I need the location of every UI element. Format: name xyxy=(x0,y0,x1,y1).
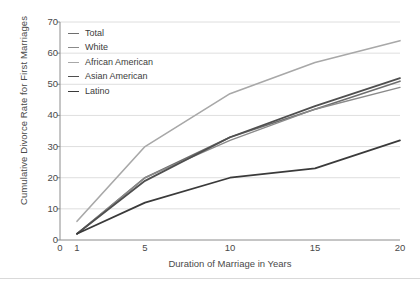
bottom-divider xyxy=(0,278,420,279)
legend-line-swatch-icon xyxy=(68,91,79,92)
x-tick-label: 20 xyxy=(388,243,412,253)
y-tick-label: 60 xyxy=(32,48,58,58)
y-tick-label: 40 xyxy=(32,110,58,120)
legend-label: African American xyxy=(85,58,153,67)
x-tick-label: 1 xyxy=(65,243,89,253)
legend-item-asian-american[interactable]: Asian American xyxy=(68,70,153,85)
plot-area xyxy=(0,0,420,283)
legend-item-white[interactable]: White xyxy=(68,41,153,56)
y-tick-label: 70 xyxy=(32,17,58,27)
legend-line-swatch-icon xyxy=(68,62,79,63)
legend-label: Latino xyxy=(85,87,110,96)
legend-label: Total xyxy=(85,29,104,38)
x-tick-label: 5 xyxy=(133,243,157,253)
legend-item-african-american[interactable]: African American xyxy=(68,55,153,70)
legend-line-swatch-icon xyxy=(68,47,79,48)
x-tick-label: 15 xyxy=(303,243,327,253)
x-tick-label: 10 xyxy=(218,243,242,253)
legend-line-swatch-icon xyxy=(68,76,79,77)
y-tick-labels: 010203040506070 xyxy=(28,0,58,283)
series-line-latino xyxy=(77,140,400,233)
legend-item-latino[interactable]: Latino xyxy=(68,84,153,99)
legend-label: Asian American xyxy=(85,72,148,81)
y-tick-label: 20 xyxy=(32,173,58,183)
legend-line-swatch-icon xyxy=(68,33,79,34)
y-tick-label: 10 xyxy=(32,204,58,214)
divorce-rate-line-chart: 010203040506070 015101520 Cumulative Div… xyxy=(0,0,420,283)
y-tick-label: 30 xyxy=(32,142,58,152)
legend-item-total[interactable]: Total xyxy=(68,26,153,41)
y-tick-label: 50 xyxy=(32,79,58,89)
x-axis-label: Duration of Marriage in Years xyxy=(60,258,400,269)
legend-label: White xyxy=(85,43,108,52)
y-axis-label: Cumulative Divorce Rate for First Marria… xyxy=(18,0,29,226)
chart-legend: TotalWhiteAfrican AmericanAsian American… xyxy=(68,26,153,99)
